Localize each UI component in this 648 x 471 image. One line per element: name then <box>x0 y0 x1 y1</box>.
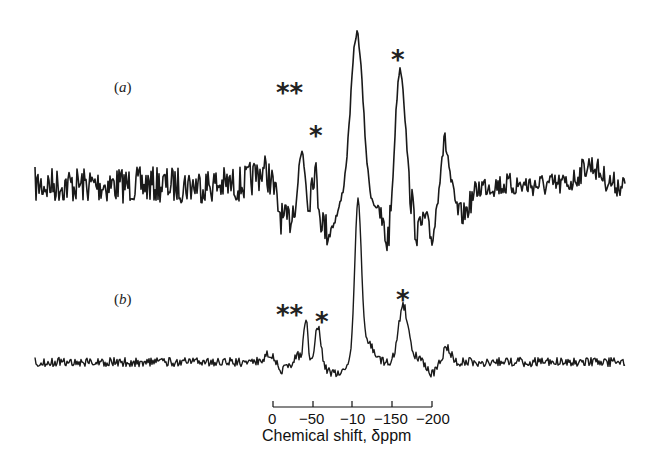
spectrum-a-trace <box>35 31 625 251</box>
x-tick-2: −10 <box>340 410 365 427</box>
spectrum-b-label: (b) <box>114 291 132 308</box>
spectrum-a-label: (a) <box>114 79 132 96</box>
peak-marker-b-single: * <box>315 309 329 335</box>
x-tick-4: −200 <box>416 410 450 427</box>
x-tick-3: −150 <box>374 410 408 427</box>
nmr-spectra-plot <box>0 0 648 471</box>
peak-marker-b-right: * <box>396 287 410 313</box>
peak-marker-a-single: * <box>309 123 323 149</box>
x-axis-title: Chemical shift, δppm <box>262 427 411 445</box>
x-tick-1: −50 <box>299 410 324 427</box>
peak-marker-b-double: ** <box>276 302 303 328</box>
x-axis <box>273 401 432 407</box>
peak-marker-a-right: * <box>391 47 405 73</box>
x-tick-0: 0 <box>268 410 276 427</box>
peak-marker-a-double: ** <box>276 80 303 106</box>
spectrum-b-trace <box>35 198 625 377</box>
